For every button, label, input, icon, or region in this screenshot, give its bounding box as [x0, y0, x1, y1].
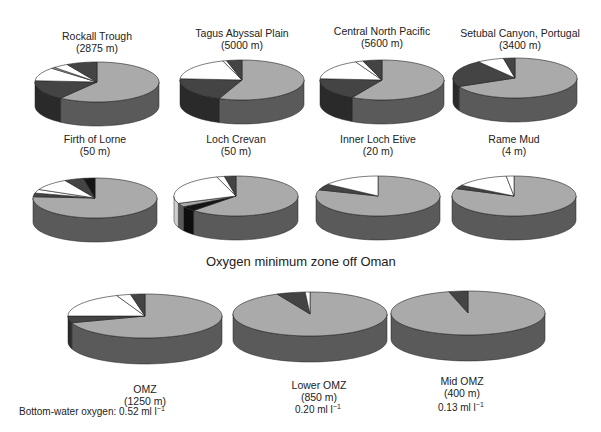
pie-firth-of-lorne	[33, 178, 157, 242]
pie-inner-loch-etive	[316, 176, 440, 240]
pie-rame-mud	[452, 176, 576, 240]
pie-mid-omz	[391, 291, 545, 361]
pie-setubal-canyon-portugal	[453, 58, 577, 122]
pie-charts-canvas	[0, 0, 601, 432]
pie-loch-crevan	[174, 176, 298, 240]
pie-central-north-pacific	[320, 60, 444, 124]
pie-side-wall	[178, 203, 183, 230]
pie-omz	[68, 294, 222, 364]
pie-rockall-trough	[35, 62, 159, 126]
pie-lower-omz	[233, 292, 387, 362]
pie-side-wall	[184, 207, 194, 235]
pie-tagus-abyssal-plain	[180, 60, 304, 124]
